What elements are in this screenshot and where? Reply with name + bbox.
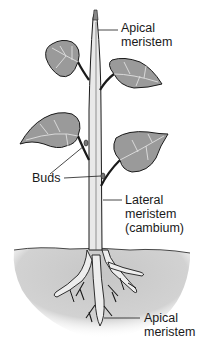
label-buds: Buds [32,171,61,185]
leaf-upper-left [46,40,89,80]
label-line: meristem [144,325,195,339]
plant-diagram: Apical meristem Buds Lateral meristem (c… [0,0,206,357]
label-apical-meristem-top: Apical meristem [121,21,172,49]
label-line: Buds [32,171,61,185]
stem [89,10,102,250]
label-line: Apical [144,311,195,325]
label-apical-meristem-bottom: Apical meristem [144,311,195,339]
label-lateral-meristem: Lateral meristem (cambium) [125,193,184,235]
bud-left [84,140,88,146]
label-line: meristem [125,207,184,221]
label-line: Apical [121,21,172,35]
label-line: Lateral [125,193,184,207]
leader-buds-upper [50,146,84,174]
bud-right [101,173,105,179]
plant-illustration [0,0,206,357]
leaf-middle-left [20,113,89,160]
label-line: meristem [121,35,172,49]
label-line: (cambium) [125,221,184,235]
leaf-upper-right [100,58,162,90]
leaf-middle-right [101,132,168,186]
